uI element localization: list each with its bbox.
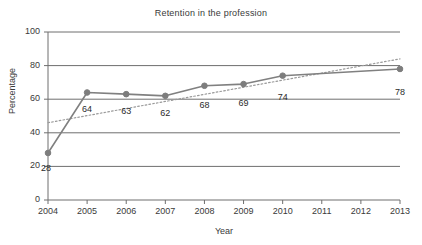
data-point-label: 63 [111,106,141,116]
retention-line-chart: Retention in the profession Percentage Y… [0,0,422,245]
x-tick-label: 2005 [67,206,107,216]
axis-lines [48,32,400,200]
data-point-label: 69 [229,98,259,108]
x-tick-label: 2006 [106,206,146,216]
y-tick-label: 40 [10,127,40,137]
gridlines [48,32,400,166]
x-tick-label: 2007 [145,206,185,216]
data-point-label: 78 [385,87,415,97]
x-tick-label: 2011 [302,206,342,216]
data-point-label: 68 [189,100,219,110]
x-tick-label: 2004 [28,206,68,216]
x-tick-label: 2008 [184,206,224,216]
data-point-label: 64 [72,104,102,114]
data-point-label: 28 [31,163,61,173]
y-tick-label: 60 [10,93,40,103]
x-tick-label: 2013 [380,206,420,216]
data-point-label: 62 [150,108,180,118]
x-tick-label: 2010 [263,206,303,216]
data-point-label: 74 [268,92,298,102]
x-tick-label: 2009 [224,206,264,216]
axis-ticks [44,32,400,204]
y-tick-label: 0 [10,194,40,204]
x-tick-label: 2012 [341,206,381,216]
y-tick-label: 100 [10,26,40,36]
y-tick-label: 80 [10,60,40,70]
